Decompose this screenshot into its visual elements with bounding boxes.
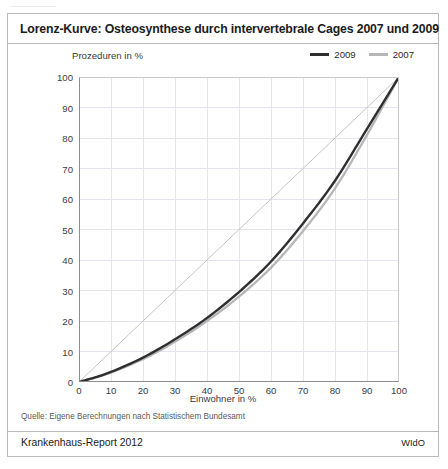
y-tick-label: 30 <box>33 285 73 296</box>
y-tick-label: 70 <box>33 163 73 174</box>
footer-report-name: Krankenhaus-Report 2012 <box>21 437 143 448</box>
y-tick-label: 10 <box>33 346 73 357</box>
footer-publisher: WIdO <box>401 438 425 448</box>
figure-title-bar: Lorenz-Kurve: Osteosynthese durch interv… <box>8 14 438 44</box>
x-axis-label: Einwohner in % <box>8 393 438 404</box>
y-tick-label: 60 <box>33 194 73 205</box>
figure-container: Lorenz-Kurve: Osteosynthese durch interv… <box>7 13 439 457</box>
legend-item-2007: 2007 <box>369 49 414 60</box>
page-top-artifact <box>10 0 56 7</box>
figure-page: Lorenz-Kurve: Osteosynthese durch interv… <box>0 0 448 469</box>
y-tick-label: 40 <box>33 255 73 266</box>
chart-legend: 2009 2007 <box>310 49 414 60</box>
figure-footer: Krankenhaus-Report 2012 WIdO <box>8 431 438 458</box>
y-tick-label: 50 <box>33 224 73 235</box>
plot-area: 0102030405060708090100 01020304050607080… <box>79 77 399 382</box>
y-tick-label: 20 <box>33 316 73 327</box>
chart-area: Prozeduren in % 2009 2007 <box>8 44 438 414</box>
y-tick-label: 90 <box>33 102 73 113</box>
page-title: Lorenz-Kurve: Osteosynthese durch interv… <box>8 22 439 36</box>
y-tick-label: 100 <box>33 72 73 83</box>
y-tick-label: 80 <box>33 133 73 144</box>
legend-item-2009: 2009 <box>310 49 355 60</box>
plot-frame <box>79 77 399 382</box>
legend-label-2007: 2007 <box>393 49 414 60</box>
legend-swatch-2009 <box>310 53 329 56</box>
y-axis-label: Prozeduren in % <box>72 50 143 61</box>
legend-swatch-2007 <box>369 53 388 56</box>
legend-label-2009: 2009 <box>334 49 355 60</box>
source-note: Quelle: Eigene Berechnungen nach Statist… <box>21 412 245 421</box>
